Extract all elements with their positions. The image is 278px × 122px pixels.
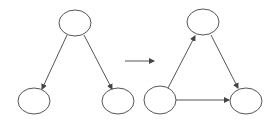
graph-transformation-diagram [0,0,278,122]
left-edge-top-to-bottom-right [84,35,112,89]
left-node-bottom-left [18,88,50,114]
right-node-top [187,9,219,35]
right-node-bottom-left [144,86,176,114]
right-node-bottom-right [230,88,262,114]
left-node-top [59,10,91,36]
left-edge-top-to-bottom-left [42,35,67,89]
left-node-bottom-right [102,88,134,114]
right-edge-top-to-bottom-right [211,35,238,88]
right-edge-bottom-left-to-top [168,36,195,88]
